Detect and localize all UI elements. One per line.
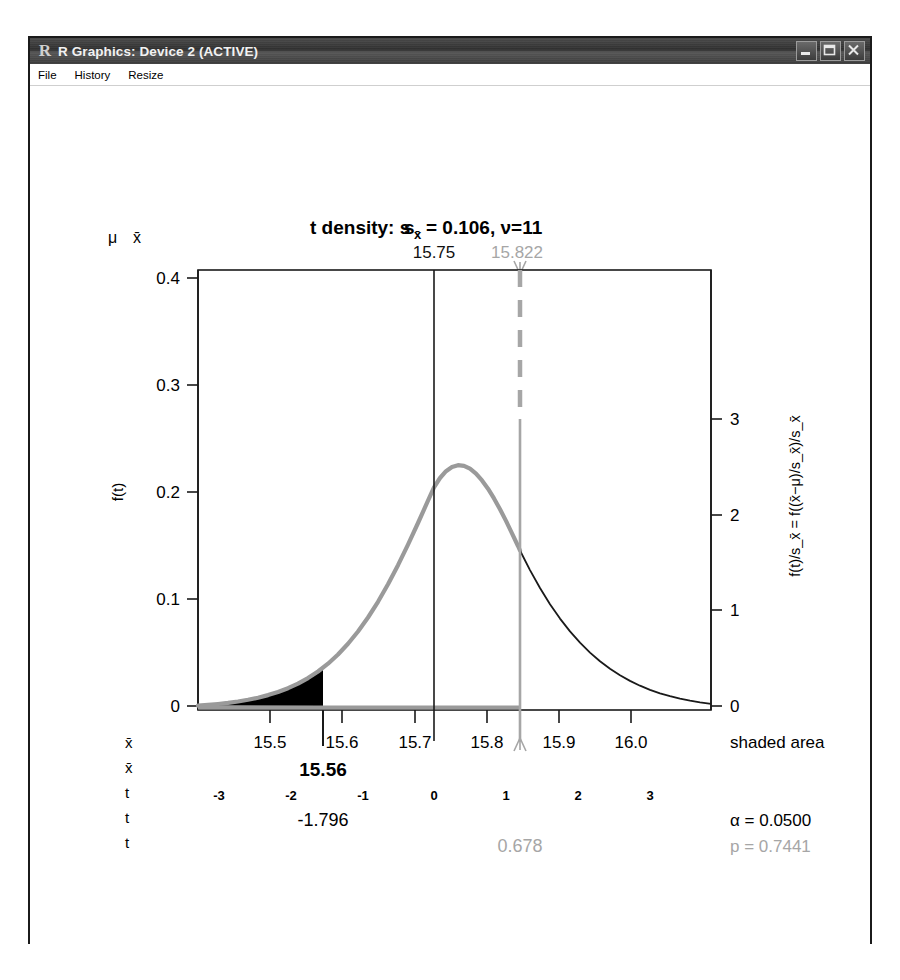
observed-xbar-top-label: 15.822	[491, 243, 543, 262]
row-label-t-1: t	[125, 784, 130, 801]
alpha-value: α = 0.0500	[730, 811, 811, 830]
axis-name-mu: μ	[108, 229, 117, 246]
plot-title-subscript: x̄	[414, 227, 422, 242]
t-tick-label-0: 0	[430, 788, 437, 803]
t-tick-label-1: 1	[502, 788, 509, 803]
observed-marker-axis-icon	[514, 736, 526, 751]
shaded-rejection-region	[198, 670, 323, 706]
close-button[interactable]	[844, 41, 865, 61]
y-tick-right-1: 1	[730, 601, 739, 620]
y-tick-left-0.1: 0.1	[156, 590, 180, 609]
y-tick-right-0: 0	[730, 697, 739, 716]
y-tick-left-0.4: 0.4	[156, 269, 180, 288]
x-tick-label-16.0: 16.0	[614, 733, 647, 752]
maximize-icon	[821, 42, 838, 58]
window-title: R Graphics: Device 2 (ACTIVE)	[58, 44, 258, 59]
t-tick-label--2: -2	[285, 788, 297, 803]
title-bar[interactable]: R R Graphics: Device 2 (ACTIVE)	[30, 38, 870, 64]
r-logo-icon: R	[36, 42, 54, 60]
x-axis-xbar-ticks	[270, 710, 631, 723]
plot-frame	[198, 270, 711, 710]
plot-title: t density: s s x̄ = 0.106, ν=11	[310, 217, 543, 242]
x-tick-label-15.8: 15.8	[470, 733, 503, 752]
y-tick-right-2: 2	[730, 506, 739, 525]
row-label-xbar-2: x̄	[125, 759, 133, 776]
t-tick-label-2: 2	[574, 788, 581, 803]
y-axis-left-label: f(t)	[109, 483, 126, 501]
y-axis-right-label: f(t)/s_x̄ = f((x̄−μ)/s_x̄)/s_x̄	[787, 415, 803, 577]
t-tick-label--1: -1	[357, 788, 369, 803]
menu-item-history[interactable]: History	[75, 69, 111, 81]
row-label-xbar-1: x̄	[125, 734, 133, 751]
critical-xbar-value: 15.56	[299, 759, 347, 780]
axis-name-xbar-top: x̄	[133, 229, 141, 246]
row-label-column: x̄ x̄ t t t	[125, 734, 133, 851]
minimize-button[interactable]	[796, 41, 817, 61]
row-label-t-3: t	[125, 834, 130, 851]
y-tick-left-0.3: 0.3	[156, 376, 180, 395]
row-label-t-2: t	[125, 809, 130, 826]
x-tick-label-15.6: 15.6	[325, 733, 358, 752]
y-tick-left-0.2: 0.2	[156, 483, 180, 502]
density-curve-black	[520, 551, 711, 704]
shaded-area-heading: shaded area	[730, 733, 825, 752]
p-value: p = 0.7441	[730, 837, 811, 856]
menu-item-resize[interactable]: Resize	[128, 69, 163, 81]
x-axis-t-labels: -3 -2 -1 0 1 2 3	[213, 788, 653, 803]
y-tick-right-3: 3	[730, 410, 739, 429]
plot-title-s: s	[404, 217, 415, 238]
y-axis-left: 0.4 0.3 0.2 0.1 0	[156, 269, 198, 716]
x-tick-label-15.7: 15.7	[398, 733, 431, 752]
x-tick-label-15.5: 15.5	[253, 733, 286, 752]
density-curve-gray	[198, 465, 520, 705]
menu-bar: File History Resize	[30, 64, 870, 86]
t-tick-label-3: 3	[646, 788, 653, 803]
menu-item-file[interactable]: File	[38, 69, 57, 81]
r-graphics-window: R R Graphics: Device 2 (ACTIVE) Fil	[28, 36, 872, 944]
window-controls	[796, 41, 867, 61]
maximize-button[interactable]	[820, 41, 841, 61]
close-icon	[845, 42, 862, 58]
t-density-plot: t density: s s x̄ = 0.106, ν=11 15.75 15…	[30, 86, 870, 944]
critical-t-value: -1.796	[297, 810, 348, 830]
minimize-icon	[797, 42, 814, 58]
x-axis-xbar-labels: 15.5 15.6 15.7 15.8 15.9 16.0	[253, 733, 647, 752]
t-tick-label--3: -3	[213, 788, 225, 803]
mu-top-label: 15.75	[413, 243, 456, 262]
observed-t-value: 0.678	[497, 836, 542, 856]
x-tick-label-15.9: 15.9	[542, 733, 575, 752]
plot-title-main: t density: s	[310, 217, 410, 238]
plot-title-rest: = 0.106, ν=11	[426, 217, 543, 238]
y-axis-right: 3 2 1 0	[711, 270, 739, 716]
graphics-canvas: t density: s s x̄ = 0.106, ν=11 15.75 15…	[30, 86, 870, 944]
y-tick-left-0: 0	[171, 697, 180, 716]
